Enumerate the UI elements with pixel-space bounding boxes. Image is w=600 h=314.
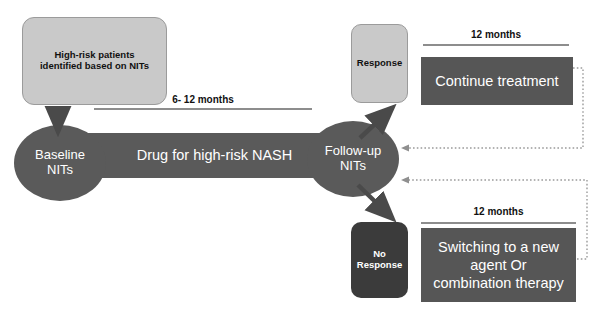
followup-line-1: Follow-up (325, 143, 381, 158)
high-risk-text: High-risk patients identified based on N… (40, 50, 149, 72)
node-high-risk-patients: High-risk patients identified based on N… (22, 17, 167, 105)
no-response-line-2: Response (357, 259, 402, 270)
node-followup-nits: Follow-up NITs (307, 121, 399, 197)
switch-treatment-text: Switching to a new agent Or combination … (433, 238, 564, 292)
node-switch-treatment: Switching to a new agent Or combination … (421, 228, 576, 302)
no-response-line-1: No (373, 248, 386, 259)
high-risk-line-2: identified based on NITs (40, 61, 149, 72)
baseline-text: Baseline NITs (35, 148, 85, 178)
duration-rule-main (94, 108, 312, 110)
switch-line-1: Switching to a new (438, 239, 559, 255)
followup-line-2: NITs (340, 158, 366, 173)
node-no-response: No Response (351, 222, 408, 298)
high-risk-line-1: High-risk patients (54, 49, 134, 60)
node-baseline-nits: Baseline NITs (14, 125, 106, 201)
duration-label-no-response-arm: 12 months (421, 206, 576, 217)
duration-label-response-arm: 12 months (423, 29, 569, 40)
baseline-line-1: Baseline (35, 147, 85, 162)
node-response: Response (351, 24, 408, 103)
continue-treatment-label: Continue treatment (435, 73, 558, 90)
baseline-line-2: NITs (47, 162, 73, 177)
no-response-text: No Response (357, 249, 402, 271)
duration-rule-no-response-arm (421, 222, 576, 224)
switch-line-2: agent Or (470, 257, 526, 273)
followup-text: Follow-up NITs (325, 144, 381, 174)
response-label: Response (357, 58, 402, 69)
flow-diagram: 6- 12 months 12 months 12 months High-ri… (0, 0, 600, 314)
node-continue-treatment: Continue treatment (421, 57, 573, 105)
drug-bar-label: Drug for high-risk NASH (137, 147, 293, 164)
switch-line-3: combination therapy (433, 275, 564, 291)
duration-rule-response-arm (423, 44, 569, 46)
